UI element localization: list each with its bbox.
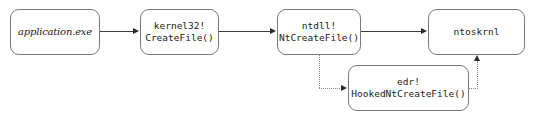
edge-edr-to-ntoskrnl-arrowhead (474, 55, 480, 61)
edge-kernel32-to-ntdll-arrowhead (270, 28, 276, 34)
node-ntoskrnl-line-1: ntoskrnl (454, 26, 500, 38)
node-kernel32-createfile[interactable]: kernel32! CreateFile() (140, 9, 219, 55)
node-ntdll-ntcreatefile[interactable]: ntdll! NtCreateFile() (277, 9, 361, 55)
node-kernel32-line-1: kernel32! (154, 20, 205, 32)
node-edr-line-2: HookedNtCreateFile() (351, 88, 465, 100)
node-kernel32-line-2: CreateFile() (145, 32, 214, 44)
edge-edr-to-ntoskrnl-vertical (477, 61, 478, 89)
edge-ntdll-to-edr-arrowhead (341, 85, 347, 91)
edge-application-to-kernel32-arrowhead (133, 28, 139, 34)
node-application-exe[interactable]: application.exe (10, 9, 100, 55)
edge-ntdll-to-ntoskrnl (361, 31, 422, 32)
edge-kernel32-to-ntdll (219, 31, 271, 32)
edge-application-to-kernel32 (100, 31, 134, 32)
node-edr-line-1: edr! (397, 76, 420, 88)
node-ntdll-line-2: NtCreateFile() (279, 32, 359, 44)
edge-ntdll-to-edr-vertical (319, 55, 320, 88)
node-ntdll-line-1: ntdll! (302, 20, 336, 32)
edge-ntdll-to-ntoskrnl-arrowhead (421, 28, 427, 34)
node-edr-hookedntcreatefile[interactable]: edr! HookedNtCreateFile() (348, 65, 469, 111)
node-ntoskrnl[interactable]: ntoskrnl (428, 9, 525, 55)
node-application-exe-line-1: application.exe (18, 26, 92, 38)
diagram-canvas: application.exe kernel32! CreateFile() n… (0, 0, 535, 117)
edge-ntdll-to-edr-horizontal (319, 88, 342, 89)
